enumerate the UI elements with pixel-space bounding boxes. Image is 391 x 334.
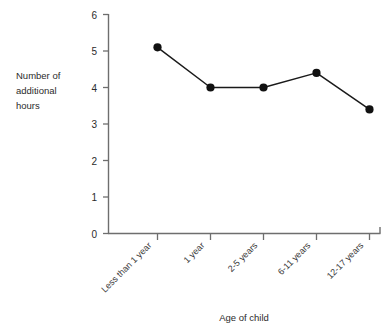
y-axis-label-line-3: hours [16,100,40,111]
y-tick-label-0: 0 [91,229,97,240]
y-axis-label-line-1: Number of [16,70,61,81]
data-point-4 [365,105,373,113]
y-axis-label-line-2: additional [16,85,57,96]
y-tick-label-6: 6 [91,10,97,21]
y-tick-label-3: 3 [91,119,97,130]
data-point-1 [206,83,214,91]
data-point-3 [312,69,320,77]
data-point-2 [259,83,267,91]
data-point-0 [153,43,161,51]
line-chart: 6 5 4 3 2 1 0 Less than 1 year 1 year 2-… [0,0,391,334]
chart-figure: 6 5 4 3 2 1 0 Less than 1 year 1 year 2-… [0,0,391,334]
chart-background [0,0,391,334]
y-tick-label-4: 4 [91,83,97,94]
y-tick-label-2: 2 [91,156,97,167]
x-axis-title: Age of child [219,312,269,323]
y-tick-label-1: 1 [91,192,97,203]
y-tick-label-5: 5 [91,46,97,57]
